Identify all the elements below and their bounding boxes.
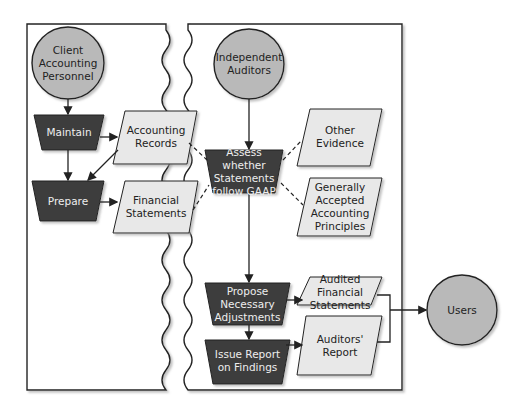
auditors-report-label: Auditors' Report (302, 323, 378, 369)
auditors-label: Independent Auditors (214, 48, 284, 80)
client-label: Client Accounting Personnel (32, 40, 104, 86)
prepare-label: Prepare (32, 186, 104, 216)
issue-report-label: Issue Report on Findings (205, 342, 290, 380)
other-evidence-label: Other Evidence (302, 113, 378, 161)
gaap-label: Generally Accepted Accounting Principles (302, 180, 378, 234)
propose-label: Propose Necessary Adjustments (205, 283, 290, 325)
accounting-records-label: Accounting Records (118, 115, 194, 159)
assess-label: Assess whether Statements follow GAAP (205, 150, 283, 193)
users-label: Users (427, 300, 497, 320)
audited-fs-label: Audited Financial Statements (302, 270, 378, 314)
financial-statements-label: Financial Statements (118, 185, 194, 229)
maintain-label: Maintain (34, 118, 104, 146)
